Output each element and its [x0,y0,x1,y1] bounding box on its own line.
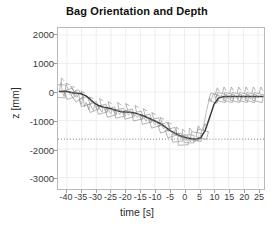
x-tick-label: 25 [254,192,264,202]
x-tick-label: -35 [74,192,87,202]
x-tick-mark [214,190,215,193]
data-series-layer [58,28,264,189]
x-tick-mark [170,190,171,193]
figure: Bag Orientation and Depth z [mm] time [s… [0,0,274,232]
x-tick-mark [96,190,97,193]
x-tick-mark [125,190,126,193]
x-tick-mark [229,190,230,193]
x-tick-mark [259,190,260,193]
x-tick-mark [244,190,245,193]
x-tick-mark [200,190,201,193]
x-tick-label: 5 [197,192,202,202]
x-tick-label: 0 [182,192,187,202]
x-tick-label: -15 [134,192,147,202]
x-tick-label: 15 [224,192,234,202]
x-tick-label: 20 [239,192,249,202]
x-tick-label: -25 [104,192,117,202]
x-tick-label: 10 [209,192,219,202]
x-tick-label: -40 [59,192,72,202]
plot-area [57,27,265,190]
x-tick-mark [66,190,67,193]
x-tick-mark [81,190,82,193]
x-tick-label: -20 [119,192,132,202]
x-tick-label: -30 [89,192,102,202]
x-tick-label: -5 [166,192,174,202]
x-tick-mark [140,190,141,193]
x-tick-mark [155,190,156,193]
x-tick-mark [185,190,186,193]
x-tick-mark [110,190,111,193]
x-tick-label: -10 [149,192,162,202]
